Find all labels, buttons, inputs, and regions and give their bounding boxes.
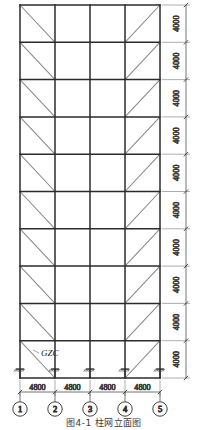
story-height-label-2: 4000 <box>172 314 181 330</box>
bay-span-label-1: 4800 <box>29 383 45 392</box>
bay-span-label-4: 4800 <box>134 383 150 392</box>
drawing-sheet: 4000400040004000400040004000400040004000… <box>0 0 208 430</box>
story-height-label-4: 4000 <box>172 239 181 255</box>
figure-caption-text: 图4-1 柱网立面图 <box>0 418 208 429</box>
story-height-label-10: 4000 <box>172 15 181 31</box>
figure-caption: 图4-1 柱网立面图 <box>0 418 208 430</box>
grid-bubble-label-1: 1 <box>18 404 22 414</box>
bay-span-label-3: 4800 <box>99 383 115 392</box>
story-height-label-7: 4000 <box>172 127 181 143</box>
grid-bubble-label-5: 5 <box>158 404 162 414</box>
story-height-label-6: 4000 <box>172 165 181 181</box>
story-height-label-5: 4000 <box>172 202 181 218</box>
story-height-label-1: 4000 <box>172 351 181 367</box>
bay-span-label-2: 4800 <box>64 383 80 392</box>
frame-elevation-drawing: 4000400040004000400040004000400040004000… <box>0 0 208 430</box>
story-height-label-8: 4000 <box>172 90 181 106</box>
story-height-label-3: 4000 <box>172 277 181 293</box>
grid-bubble-label-3: 3 <box>88 404 92 414</box>
story-height-label-9: 4000 <box>172 53 181 69</box>
grid-bubble-label-2: 2 <box>53 404 57 414</box>
member-label-gzc: GZC <box>41 348 60 358</box>
